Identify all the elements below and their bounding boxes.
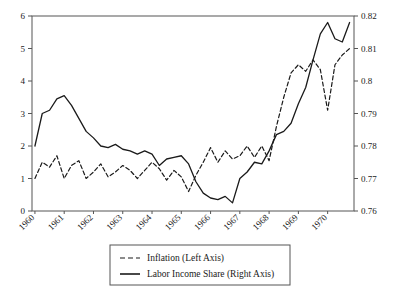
x-tick-label: 1970 (309, 212, 329, 232)
x-tick-label: 1967 (221, 212, 241, 232)
x-tick-label: 1964 (134, 212, 154, 232)
right-tick-label: 0.76 (361, 206, 377, 216)
left-tick-label: 6 (21, 11, 26, 21)
x-tick-label: 1966 (192, 212, 212, 232)
left-tick-label: 4 (21, 76, 26, 86)
x-tick-label: 1962 (75, 212, 95, 232)
dual-axis-line-chart: 0123456 0.760.770.780.790.80.810.82 1960… (0, 0, 395, 294)
x-tick-label: 1963 (104, 212, 124, 232)
x-tick-label: 1969 (280, 212, 300, 232)
right-tick-label: 0.8 (361, 76, 373, 86)
left-tick-label: 5 (21, 44, 26, 54)
series-layer (35, 23, 350, 203)
x-tick-label: 1961 (46, 212, 66, 232)
right-tick-label: 0.79 (361, 109, 377, 119)
legend-label-labor-income-share: Labor Income Share (Right Axis) (147, 269, 274, 280)
legend-label-inflation: Inflation (Left Axis) (147, 253, 224, 264)
left-tick-label: 1 (21, 174, 26, 184)
right-tick-label: 0.78 (361, 141, 377, 151)
plot-frame (32, 16, 354, 211)
left-tick-label: 0 (21, 206, 26, 216)
left-axis-ticks: 0123456 (21, 11, 33, 216)
x-axis-ticks: 1960196119621963196419651966196719681969… (17, 211, 330, 232)
series-line-inflation (35, 49, 350, 192)
series-line-labor-income-share (35, 23, 350, 203)
x-tick-label: 1968 (251, 212, 271, 232)
left-tick-label: 2 (21, 141, 26, 151)
x-tick-label: 1965 (163, 212, 183, 232)
right-tick-label: 0.77 (361, 174, 377, 184)
right-tick-label: 0.82 (361, 11, 377, 21)
plot-border (32, 16, 354, 211)
right-axis-ticks: 0.760.770.780.790.80.810.82 (354, 11, 377, 216)
right-tick-label: 0.81 (361, 44, 377, 54)
chart-container: 0123456 0.760.770.780.790.80.810.82 1960… (0, 0, 395, 294)
left-tick-label: 3 (21, 109, 26, 119)
legend-box (110, 245, 290, 285)
legend: Inflation (Left Axis) Labor Income Share… (110, 245, 290, 285)
